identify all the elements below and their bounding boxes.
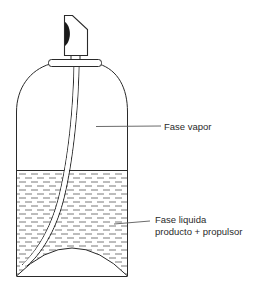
valve-cap	[49, 60, 102, 67]
vapor-phase-label: Fase vapor	[164, 121, 212, 132]
vapor-leader-line	[96, 126, 161, 127]
nozzle	[65, 16, 88, 56]
aerosol-can-diagram: Fase vapor Fase liquida producto + propu…	[0, 0, 269, 292]
liquid-phase-label-line1: Fase liquida	[155, 214, 207, 225]
liquid-phase-label-line2: producto + propulsor	[155, 226, 242, 237]
